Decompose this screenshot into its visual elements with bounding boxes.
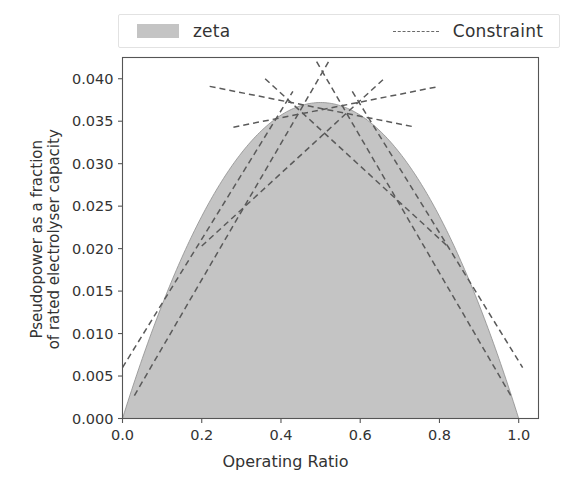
y-tick-label: 0.005 xyxy=(72,368,114,384)
x-tick-label: 0.6 xyxy=(349,427,372,443)
y-tick-label: 0.010 xyxy=(72,326,114,342)
y-axis-label-line1: Pseudopower as a fraction xyxy=(29,89,46,389)
x-tick-label: 0.4 xyxy=(269,427,292,443)
y-tick-label: 0.030 xyxy=(72,156,114,172)
y-tick-label: 0.000 xyxy=(72,411,114,427)
x-axis-label: Operating Ratio xyxy=(0,452,571,471)
y-axis-label: Pseudopower as a fraction of rated elect… xyxy=(29,89,64,389)
x-tick-label: 0.8 xyxy=(428,427,451,443)
chart-figure: zeta Constraint 0.00.20.40.60.81.00.0000… xyxy=(0,0,571,489)
y-tick-label: 0.020 xyxy=(72,241,114,257)
x-tick-label: 0.2 xyxy=(190,427,213,443)
x-tick-label: 0.0 xyxy=(111,427,134,443)
x-tick-label: 1.0 xyxy=(507,427,530,443)
y-tick-label: 0.040 xyxy=(72,71,114,87)
y-tick-label: 0.025 xyxy=(72,198,114,214)
plot-canvas: 0.00.20.40.60.81.00.0000.0050.0100.0150.… xyxy=(0,0,571,489)
y-tick-label: 0.015 xyxy=(72,283,114,299)
zeta-area-series xyxy=(123,103,519,419)
y-axis-label-line2: of rated electrolyser capacity xyxy=(46,89,63,389)
y-tick-label: 0.035 xyxy=(72,113,114,129)
data-layer xyxy=(123,62,523,419)
